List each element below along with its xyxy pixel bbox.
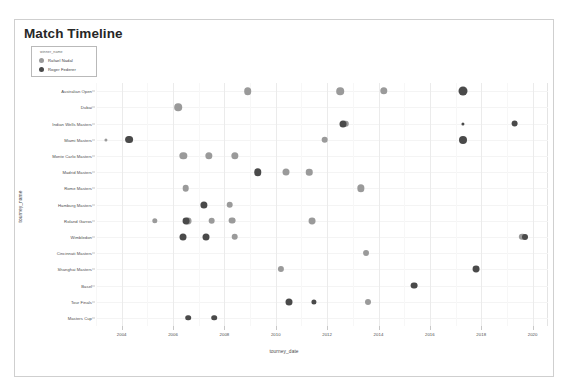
x-axis-tick-label: 2014 — [374, 332, 384, 337]
gridline-vertical — [507, 83, 508, 326]
gridline-vertical — [379, 83, 380, 326]
legend-item-label: Roger Federer — [48, 67, 76, 72]
scatter-point[interactable] — [306, 169, 313, 176]
scatter-point[interactable] — [336, 87, 344, 95]
scatter-point[interactable] — [244, 87, 252, 95]
x-axis-tick-label: 2006 — [168, 332, 178, 337]
scatter-point[interactable] — [211, 315, 217, 321]
chart-screenshot: Match Timeline winner_name Rafael NadalR… — [0, 0, 568, 391]
scatter-point[interactable] — [522, 234, 528, 240]
y-axis-tick-mark — [92, 317, 95, 318]
gridline-vertical — [147, 83, 148, 326]
scatter-point[interactable] — [308, 217, 315, 224]
gridline-horizontal — [96, 269, 548, 270]
y-axis-tick-label: Rome Masters — [64, 186, 92, 191]
x-axis-tick-label: 2012 — [322, 332, 332, 337]
x-axis-tick-label: 2018 — [476, 332, 486, 337]
y-axis-tick-mark — [92, 220, 95, 221]
scatter-point[interactable] — [180, 233, 187, 240]
scatter-point[interactable] — [183, 185, 190, 192]
scatter-point[interactable] — [459, 136, 467, 144]
gridline-vertical — [456, 83, 457, 326]
x-axis-tick-mark — [430, 326, 431, 330]
legend-item-label: Rafael Nadal — [48, 58, 73, 63]
scatter-point[interactable] — [380, 87, 387, 94]
scatter-point[interactable] — [182, 217, 189, 224]
scatter-point[interactable] — [200, 201, 207, 208]
scatter-plot-area — [96, 83, 548, 326]
y-axis-tick-mark — [92, 172, 95, 173]
legend: winner_name Rafael NadalRoger Federer — [31, 46, 97, 77]
y-axis-tick-label: Roland Garros — [64, 218, 92, 223]
scatter-point[interactable] — [365, 299, 371, 305]
gridline-vertical — [276, 83, 277, 326]
scatter-point[interactable] — [174, 104, 182, 112]
scatter-point[interactable] — [511, 120, 518, 127]
gridline-horizontal — [96, 188, 548, 189]
scatter-point[interactable] — [283, 169, 290, 176]
x-axis-tick-label: 2004 — [117, 332, 127, 337]
scatter-point[interactable] — [229, 217, 236, 224]
gridline-horizontal — [96, 172, 548, 173]
x-axis-tick-mark — [533, 326, 534, 330]
y-axis-title: tourney_name — [18, 191, 23, 223]
gridline-vertical — [122, 83, 123, 326]
y-axis-tick-label: Australian Open — [61, 89, 92, 94]
legend-title: winner_name — [40, 50, 93, 54]
gridline-horizontal — [96, 91, 548, 92]
y-axis-tick-mark — [92, 107, 95, 108]
x-axis-tick-mark — [224, 326, 225, 330]
legend-item[interactable]: Roger Federer — [35, 65, 93, 74]
scatter-point[interactable] — [208, 217, 215, 224]
x-axis-tick-label: 2020 — [528, 332, 538, 337]
scatter-point[interactable] — [357, 185, 364, 192]
x-axis-tick-label: 2008 — [220, 332, 230, 337]
scatter-point[interactable] — [278, 266, 284, 272]
scatter-point[interactable] — [321, 136, 328, 143]
scatter-point[interactable] — [125, 136, 133, 144]
x-axis-tick-label: 2016 — [425, 332, 435, 337]
scatter-point[interactable] — [231, 152, 238, 159]
scatter-point[interactable] — [186, 315, 192, 321]
y-axis-tick-label: Madrid Masters — [62, 170, 92, 175]
y-axis-ticks: Australian OpenDubaiIndian Wells Masters… — [0, 83, 92, 326]
gridline-vertical — [533, 83, 534, 326]
scatter-point[interactable] — [312, 299, 317, 304]
gridline-vertical — [404, 83, 405, 326]
x-axis-tick-mark — [481, 326, 482, 330]
y-axis-tick-mark — [92, 269, 95, 270]
scatter-point[interactable] — [363, 250, 369, 256]
y-axis-tick-label: Tour Finals — [71, 299, 92, 304]
y-axis-tick-label: Shanghai Masters — [57, 267, 92, 272]
scatter-point[interactable] — [180, 152, 187, 159]
scatter-point[interactable] — [203, 233, 210, 240]
scatter-point[interactable] — [459, 87, 468, 96]
gridline-horizontal — [96, 302, 548, 303]
legend-item[interactable]: Rafael Nadal — [35, 56, 93, 65]
scatter-point[interactable] — [339, 120, 346, 127]
y-axis-tick-mark — [92, 188, 95, 189]
scatter-point[interactable] — [231, 234, 238, 241]
scatter-point[interactable] — [226, 201, 233, 208]
y-axis-tick-mark — [92, 91, 95, 92]
x-axis-tick-mark — [379, 326, 380, 330]
x-axis-tick-label: 2010 — [271, 332, 281, 337]
scatter-point[interactable] — [411, 282, 418, 289]
x-axis-tick-mark — [327, 326, 328, 330]
y-axis-tick-mark — [92, 123, 95, 124]
scatter-point[interactable] — [285, 298, 292, 305]
scatter-point[interactable] — [254, 168, 262, 176]
scatter-point[interactable] — [152, 218, 157, 223]
legend-swatch-icon — [39, 67, 44, 72]
scatter-point[interactable] — [105, 138, 108, 141]
gridline-horizontal — [96, 107, 548, 108]
gridline-vertical — [301, 83, 302, 326]
y-axis-tick-mark — [92, 236, 95, 237]
y-axis-tick-mark — [92, 155, 95, 156]
scatter-point[interactable] — [205, 152, 212, 159]
y-axis-tick-mark — [92, 285, 95, 286]
scatter-point[interactable] — [473, 266, 480, 273]
y-axis-tick-mark — [92, 139, 95, 140]
scatter-point[interactable] — [462, 122, 465, 125]
y-axis-tick-label: Monte Carlo Masters — [52, 153, 92, 158]
